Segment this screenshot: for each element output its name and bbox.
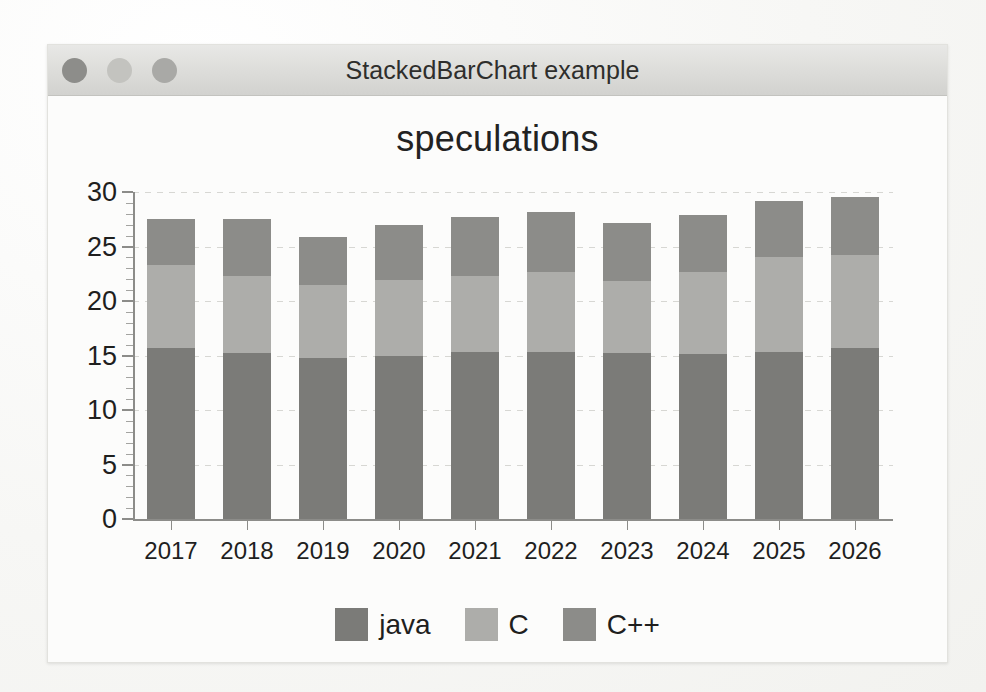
bar-2025[interactable] [755,192,803,519]
x-axis-tick [855,519,856,530]
y-axis-tick-minor [126,268,133,269]
bar-segment-C[interactable] [603,281,651,353]
legend-item-Cpp[interactable]: C++ [563,608,660,641]
x-axis-tick [399,519,400,530]
y-axis-tick-minor [126,257,133,258]
bar-segment-Cpp[interactable] [679,215,727,272]
x-axis-tick [171,519,172,530]
bar-segment-C[interactable] [451,276,499,352]
bar-segment-java[interactable] [831,348,879,519]
close-button[interactable] [62,58,87,83]
y-axis-tick-major [122,300,133,302]
x-axis-tick [551,519,552,530]
legend-item-C[interactable]: C [465,608,529,641]
legend-item-java[interactable]: java [335,608,430,641]
x-axis-label: 2021 [448,537,501,565]
window-title-bar[interactable]: StackedBarChart example [48,45,947,96]
y-axis-tick-minor [126,366,133,367]
legend-label: java [379,611,430,639]
y-axis-tick-minor [126,508,133,509]
bar-segment-Cpp[interactable] [831,197,879,255]
window-title: StackedBarChart example [48,56,947,85]
y-axis-tick-minor [126,214,133,215]
y-axis-tick-major [122,355,133,357]
x-axis-label: 2019 [296,537,349,565]
y-axis-tick-major [122,246,133,248]
bar-2019[interactable] [299,192,347,519]
bar-segment-Cpp[interactable] [375,225,423,281]
bar-segment-Cpp[interactable] [223,219,271,276]
legend-swatch-icon [465,608,498,641]
x-axis-label: 2020 [372,537,425,565]
bar-2020[interactable] [375,192,423,519]
bar-segment-Cpp[interactable] [527,212,575,272]
x-axis-label: 2017 [144,537,197,565]
bar-segment-java[interactable] [147,348,195,519]
app-window: StackedBarChart example speculations 051… [47,44,948,663]
bar-2026[interactable] [831,192,879,519]
zoom-button[interactable] [152,58,177,83]
window-content: speculations 051015202530 20172018201920… [48,96,947,663]
bar-segment-Cpp[interactable] [299,237,347,285]
x-axis-label: 2024 [676,537,729,565]
bar-segment-C[interactable] [527,272,575,353]
bar-segment-Cpp[interactable] [755,201,803,258]
legend-swatch-icon [335,608,368,641]
bar-segment-java[interactable] [603,353,651,519]
y-axis-tick-minor [126,432,133,433]
bar-segment-java[interactable] [451,352,499,519]
bar-2017[interactable] [147,192,195,519]
y-axis-label: 10 [87,395,117,426]
y-axis-label: 15 [87,340,117,371]
bar-segment-java[interactable] [299,358,347,519]
y-axis-tick-minor [126,377,133,378]
bar-2022[interactable] [527,192,575,519]
bar-segment-C[interactable] [755,257,803,352]
x-axis-label: 2026 [828,537,881,565]
legend-label: C [509,611,529,639]
y-axis-tick-minor [126,399,133,400]
bar-segment-java[interactable] [527,352,575,519]
y-axis-tick-minor [126,334,133,335]
x-axis-tick [247,519,248,530]
bar-segment-java[interactable] [223,353,271,519]
bar-segment-C[interactable] [679,272,727,355]
chart-title: speculations [48,96,947,160]
chart-plot-area: 051015202530 201720182019202020212022202… [133,192,893,519]
bar-segment-C[interactable] [375,280,423,355]
y-axis-tick-minor [126,225,133,226]
y-axis-tick-minor [126,279,133,280]
bar-2023[interactable] [603,192,651,519]
y-axis-line [133,192,135,519]
bar-segment-Cpp[interactable] [451,217,499,276]
bar-segment-java[interactable] [755,352,803,519]
legend-label: C++ [607,611,660,639]
y-axis-label: 5 [102,449,117,480]
bar-2024[interactable] [679,192,727,519]
bar-2018[interactable] [223,192,271,519]
y-axis-tick-minor [126,421,133,422]
y-axis-tick-minor [126,236,133,237]
y-axis-tick-minor [126,443,133,444]
y-axis-label: 0 [102,504,117,535]
bar-segment-Cpp[interactable] [603,223,651,282]
x-axis-tick [475,519,476,530]
y-axis-tick-minor [126,497,133,498]
x-axis-tick [703,519,704,530]
window-controls [62,45,177,95]
y-axis-tick-minor [126,203,133,204]
bar-segment-C[interactable] [299,285,347,358]
bar-segment-java[interactable] [375,356,423,520]
y-axis-label: 25 [87,231,117,262]
bar-2021[interactable] [451,192,499,519]
bar-segment-C[interactable] [147,265,195,348]
y-axis-tick-minor [126,345,133,346]
y-axis-label: 30 [87,177,117,208]
bar-segment-C[interactable] [831,255,879,348]
minimize-button[interactable] [107,58,132,83]
bar-segment-java[interactable] [679,354,727,519]
y-axis-tick-minor [126,454,133,455]
y-axis-tick-minor [126,486,133,487]
bar-segment-C[interactable] [223,276,271,353]
bar-segment-Cpp[interactable] [147,219,195,265]
